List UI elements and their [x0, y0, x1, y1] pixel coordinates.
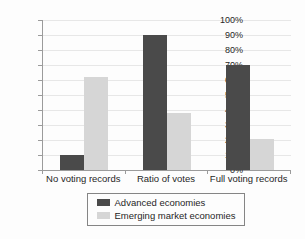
bar-group	[208, 20, 291, 170]
bar-advanced-economies	[143, 35, 167, 170]
legend-item: Advanced economies	[97, 197, 236, 208]
bar-chart: 0%10%20%30%40%50%60%70%80%90%100% No vot…	[0, 0, 305, 239]
legend-item: Emerging market economies	[97, 210, 236, 221]
bar-advanced-economies	[226, 65, 250, 170]
bar-emerging-market-economies	[250, 139, 274, 171]
x-axis-category-label: Full voting records	[207, 173, 290, 184]
bar-group	[126, 20, 209, 170]
bar-emerging-market-economies	[167, 113, 191, 170]
legend-wrap: Advanced economiesEmerging market econom…	[42, 193, 290, 226]
x-axis-labels: No voting recordsRatio of votesFull voti…	[42, 173, 290, 184]
x-axis-tick	[290, 170, 291, 174]
legend-label: Emerging market economies	[115, 210, 236, 221]
bar-groups	[43, 20, 291, 170]
legend-swatch-icon	[97, 199, 110, 206]
x-axis-category-label: Ratio of votes	[125, 173, 208, 184]
legend-label: Advanced economies	[115, 197, 206, 208]
bar-group	[43, 20, 126, 170]
x-axis-category-label: No voting records	[42, 173, 125, 184]
legend-swatch-icon	[97, 212, 110, 219]
bar-emerging-market-economies	[84, 77, 108, 170]
legend: Advanced economiesEmerging market econom…	[87, 193, 246, 226]
bar-advanced-economies	[60, 155, 84, 170]
plot-area: 0%10%20%30%40%50%60%70%80%90%100%	[42, 20, 291, 171]
